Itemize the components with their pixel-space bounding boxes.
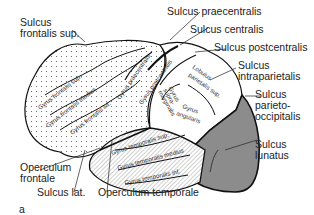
label-sulcus-centralis: Sulcus centralis	[190, 24, 264, 35]
panel-letter: a	[19, 204, 25, 215]
label-sulcus-frontalis-sup: Sulcus frontalis sup.	[20, 17, 80, 39]
label-sulcus-parieto-occipitalis: Sulcus parieto- occipitalis	[255, 89, 301, 122]
label-operculum-temporale: Operculum temporale	[98, 187, 199, 198]
label-sulcus-lat: Sulcus lat.	[37, 187, 85, 198]
label-sulcus-intraparietalis: Sulcus intraparietalis	[238, 60, 300, 82]
label-operculum-frontale: Operculum frontale	[20, 162, 71, 184]
label-sulcus-praecentralis: Sulcus praecentralis	[167, 6, 262, 17]
label-sulcus-lunatus: Sulcus lunatus	[255, 139, 289, 161]
label-sulcus-postcentralis: Sulcus postcentralis	[214, 42, 307, 53]
